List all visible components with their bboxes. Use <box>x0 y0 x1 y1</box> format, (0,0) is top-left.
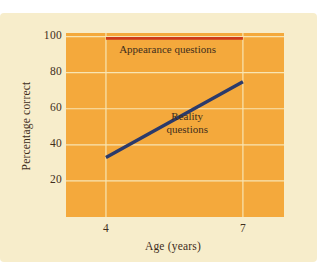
x-tick-label: 7 <box>240 222 246 234</box>
y-tick-label: 100 <box>32 29 62 41</box>
y-axis-title: Percentage correct <box>20 82 32 171</box>
series-label: Appearance questions <box>119 43 216 56</box>
y-tick-label: 40 <box>32 137 62 149</box>
figure-card: Percentage correct Age (years) 204060801… <box>0 13 317 262</box>
x-axis-title: Age (years) <box>145 240 201 252</box>
y-tick-label: 80 <box>32 65 62 77</box>
y-tick-label: 20 <box>32 173 62 185</box>
y-tick-label: 60 <box>32 101 62 113</box>
x-tick-label: 4 <box>103 222 109 234</box>
page: { "page": { "background": "#ffffff" }, "… <box>0 0 321 274</box>
series-label: Realityquestions <box>166 110 208 136</box>
